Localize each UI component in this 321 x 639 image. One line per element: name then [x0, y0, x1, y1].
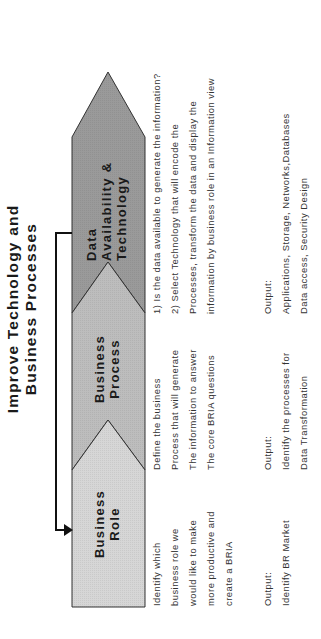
description-line: Define the business: [148, 349, 166, 470]
description-line: information by business role in an Infor…: [202, 73, 220, 314]
output-business-role: Output: Identify BR Market: [259, 520, 295, 606]
output-data-technology: Output: Applications, Storage, Networks,…: [259, 113, 313, 314]
feedback-connector-line: [56, 233, 72, 530]
output-line: Data Transformation: [295, 352, 313, 470]
description-data-technology: 1) Is the data available to generate the…: [148, 73, 220, 314]
label-line: Business: [92, 314, 107, 424]
label-line: Role: [107, 469, 122, 579]
description-business-role: Identify which business role we would li…: [148, 511, 238, 606]
output-label: Output:: [259, 520, 277, 606]
label-line: Technology: [114, 111, 129, 261]
stage-label-business-process: Business Process: [92, 314, 122, 424]
output-line: Data access, Security Design: [295, 113, 313, 314]
description-line: business role we: [166, 511, 184, 606]
output-line: Identify the processes for: [277, 352, 295, 470]
label-line: Availability &: [99, 111, 114, 261]
output-label: Output:: [259, 113, 277, 314]
description-line: Processes, transform the data and displa…: [184, 73, 202, 314]
description-line: The core BRIA questions: [202, 349, 220, 470]
rotated-diagram-page: Improve Technology and Business Processe…: [0, 0, 321, 639]
description-line: 2) Select Technology that will encode th…: [166, 73, 184, 314]
output-line: Identify BR Market: [277, 520, 295, 606]
output-label: Output:: [259, 352, 277, 470]
label-line: Business: [92, 469, 107, 579]
description-line: Identify which: [148, 511, 166, 606]
description-line: Process that will generate: [166, 349, 184, 470]
label-line: Process: [107, 314, 122, 424]
description-line: would like to make: [184, 511, 202, 606]
stage-label-business-role: Business Role: [92, 469, 122, 579]
label-line: Data: [84, 111, 99, 261]
description-line: The information to answer: [184, 349, 202, 470]
description-line: 1) Is the data available to generate the…: [148, 73, 166, 314]
output-line: Applications, Storage, Networks,Database…: [277, 113, 295, 314]
description-line: more productive and: [202, 511, 220, 606]
description-line: create a BRIA: [220, 511, 238, 606]
description-business-process: Define the business Process that will ge…: [148, 349, 220, 470]
stage-label-data-technology: Data Availability & Technology: [84, 111, 129, 261]
output-business-process: Output: Identify the processes for Data …: [259, 352, 313, 470]
